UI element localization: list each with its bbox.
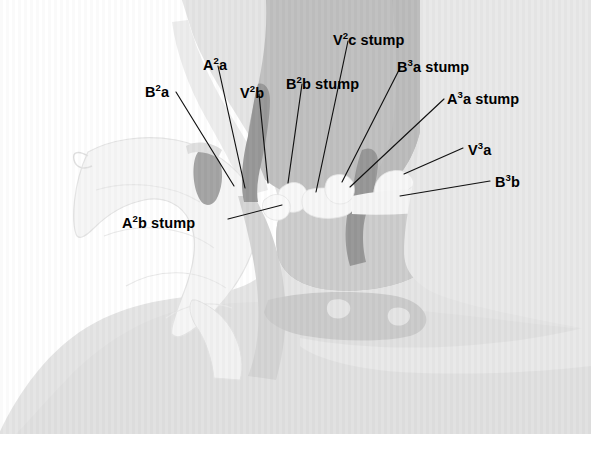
annotation-label-v3a: V3a bbox=[468, 143, 491, 158]
annotation-label-a3a-stump: A3a stump bbox=[447, 92, 519, 107]
label-tail-text: a bbox=[219, 57, 227, 73]
label-tail-text: a stump bbox=[463, 91, 519, 107]
label-tail-text: b bbox=[511, 174, 520, 190]
label-main-text: A bbox=[203, 57, 214, 73]
label-tail-text: a stump bbox=[413, 59, 469, 75]
annotation-label-b2b-stump: B2b stump bbox=[286, 77, 359, 92]
label-tail-text: b bbox=[255, 85, 264, 101]
label-main-text: B bbox=[495, 174, 506, 190]
surgical-illustration-canvas bbox=[0, 0, 591, 452]
label-main-text: B bbox=[397, 59, 408, 75]
label-main-text: V bbox=[240, 85, 250, 101]
annotation-label-b3a-stump: B3a stump bbox=[397, 60, 469, 75]
annotation-label-b2a: B2a bbox=[145, 85, 169, 100]
annotation-label-v2c-stump: V2c stump bbox=[333, 33, 405, 48]
label-tail-text: c stump bbox=[348, 32, 404, 48]
annotation-label-b3b: B3b bbox=[495, 175, 520, 190]
label-tail-text: b stump bbox=[302, 76, 359, 92]
label-main-text: V bbox=[333, 32, 343, 48]
illustration-body bbox=[0, 0, 591, 452]
label-tail-text: a bbox=[161, 84, 169, 100]
annotation-label-a2b-stump: A2b stump bbox=[122, 216, 195, 231]
scan-texture-overlay bbox=[0, 0, 591, 434]
label-tail-text: a bbox=[483, 142, 491, 158]
label-main-text: A bbox=[122, 215, 133, 231]
label-main-text: V bbox=[468, 142, 478, 158]
label-main-text: B bbox=[145, 84, 156, 100]
label-main-text: A bbox=[447, 91, 458, 107]
anatomical-figure: B2aA2aV2bB2b stumpV2c stumpB3a stumpA3a … bbox=[0, 0, 591, 452]
annotation-label-v2b: V2b bbox=[240, 86, 264, 101]
label-main-text: B bbox=[286, 76, 297, 92]
annotation-label-a2a: A2a bbox=[203, 58, 227, 73]
label-tail-text: b stump bbox=[138, 215, 195, 231]
